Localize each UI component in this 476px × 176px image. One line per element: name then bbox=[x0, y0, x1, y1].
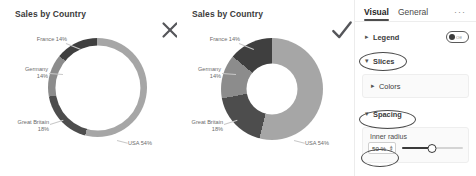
inner-radius-spinbox[interactable]: 50 % ▲ ▼ bbox=[368, 142, 396, 154]
leader-line-usa-before bbox=[117, 140, 128, 144]
legend-toggle-state: Off bbox=[456, 35, 462, 40]
pane-more-icon[interactable]: ··· bbox=[454, 7, 466, 21]
slice-label-germany-pct-after: 14% bbox=[177, 73, 221, 81]
format-pane: Visual General ··· ▸ Legend Off ▾ Slices bbox=[354, 0, 476, 176]
colors-card: ▸ Colors bbox=[362, 74, 469, 98]
slice-label-france-after: France 14% bbox=[192, 36, 240, 44]
slice-label-usa-after: USA 54% bbox=[305, 140, 353, 148]
slice-label-france-before: France 14% bbox=[19, 36, 67, 44]
chart-card-after: Sales by Country France 14% Germany 14% … bbox=[177, 0, 354, 176]
tab-general[interactable]: General bbox=[398, 7, 428, 21]
section-spacing-label: Spacing bbox=[373, 110, 402, 119]
donut-hole-before bbox=[55, 45, 140, 130]
inner-radius-value: 50 % bbox=[372, 145, 386, 152]
section-legend[interactable]: ▸ Legend Off bbox=[362, 27, 469, 47]
section-spacing[interactable]: ▾ Spacing bbox=[362, 104, 469, 124]
section-colors-label: Colors bbox=[379, 82, 400, 91]
chart-card-before: Sales by Country France 14% Germany 14% … bbox=[0, 0, 177, 176]
legend-toggle[interactable]: Off bbox=[446, 31, 469, 43]
spinner-arrows-icon[interactable]: ▲ ▼ bbox=[389, 145, 393, 151]
donut-chart-after[interactable] bbox=[221, 38, 323, 140]
donut-ring-before bbox=[48, 38, 147, 137]
inner-radius-slider[interactable] bbox=[402, 142, 463, 154]
screenshot-root: Sales by Country France 14% Germany 14% … bbox=[0, 0, 476, 176]
section-slices-label: Slices bbox=[373, 57, 394, 66]
donut-hole-after bbox=[247, 64, 298, 115]
check-mark-icon bbox=[329, 17, 355, 43]
section-colors[interactable]: ▸ Colors bbox=[368, 76, 463, 96]
donut-ring-after bbox=[221, 38, 323, 140]
chevron-down-icon-spacing: ▾ bbox=[362, 110, 371, 118]
slice-label-germany-pct-before: 14% bbox=[4, 73, 48, 81]
slider-thumb[interactable] bbox=[428, 144, 437, 153]
pane-tab-strip: Visual General ··· bbox=[355, 0, 476, 21]
chevron-up-icon-slices: ▾ bbox=[362, 57, 371, 65]
spinner-down-icon[interactable]: ▼ bbox=[389, 148, 393, 151]
slice-label-gb-pct-after: 18% bbox=[175, 126, 223, 134]
chevron-right-icon-legend: ▸ bbox=[362, 33, 371, 41]
slice-label-gb-pct-before: 18% bbox=[1, 126, 49, 134]
donut-chart-before[interactable] bbox=[48, 38, 147, 137]
legend-toggle-knob bbox=[449, 34, 455, 40]
inner-radius-control-row: 50 % ▲ ▼ bbox=[368, 142, 463, 154]
chevron-right-icon-colors: ▸ bbox=[368, 82, 377, 90]
leader-line-usa-after bbox=[294, 140, 305, 144]
pane-body: ▸ Legend Off ▾ Slices ▸ Colors bbox=[355, 27, 476, 163]
chart-title-before: Sales by Country bbox=[15, 9, 86, 19]
inner-radius-card: Inner radius 50 % ▲ ▼ bbox=[362, 127, 469, 163]
pane-divider bbox=[355, 21, 476, 22]
section-legend-label: Legend bbox=[373, 33, 399, 42]
section-slices[interactable]: ▾ Slices bbox=[362, 51, 469, 71]
inner-radius-label: Inner radius bbox=[370, 133, 463, 140]
tab-visual[interactable]: Visual bbox=[364, 7, 389, 21]
chart-title-after: Sales by Country bbox=[192, 9, 263, 19]
slice-label-usa-before: USA 54% bbox=[128, 140, 176, 148]
